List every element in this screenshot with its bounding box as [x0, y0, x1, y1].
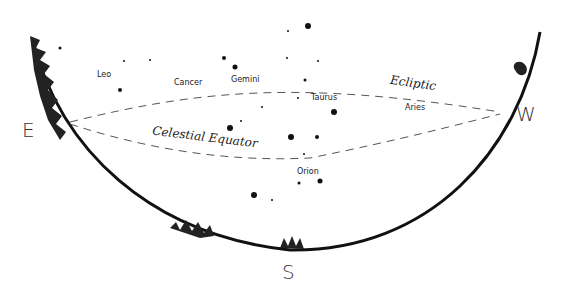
constellation-cancer: Cancer — [174, 78, 202, 87]
direction-west: W — [516, 102, 536, 126]
horizon-trees-west — [514, 62, 527, 76]
star — [227, 125, 233, 131]
star — [149, 59, 151, 61]
direction-east: E — [22, 118, 35, 142]
star — [288, 134, 294, 140]
star — [331, 109, 337, 115]
star — [305, 23, 311, 29]
star — [287, 30, 289, 32]
star — [317, 60, 319, 62]
horizon-arc — [32, 32, 540, 250]
star — [297, 97, 299, 99]
star — [286, 57, 288, 59]
celestial-equator-line — [70, 114, 500, 159]
direction-south: S — [282, 260, 295, 284]
constellation-orion: Orion — [297, 167, 319, 176]
ecliptic-line — [70, 92, 500, 122]
star — [315, 135, 319, 139]
constellation-taurus: Taurus — [311, 93, 337, 102]
star — [59, 47, 62, 50]
star — [251, 192, 257, 198]
star — [318, 179, 323, 184]
star — [123, 60, 125, 62]
horizon-trees-east — [30, 36, 66, 140]
star — [304, 79, 307, 82]
star — [222, 56, 226, 60]
star — [271, 199, 273, 201]
star — [233, 65, 238, 70]
constellation-aries: Aries — [405, 103, 425, 112]
star — [240, 120, 242, 122]
star — [298, 182, 301, 185]
star — [261, 106, 263, 108]
constellation-leo: Leo — [97, 70, 111, 79]
constellation-gemini: Gemini — [231, 75, 259, 84]
stars — [59, 23, 338, 201]
star — [303, 153, 305, 155]
star — [118, 88, 122, 92]
sky-dome-drawing — [0, 0, 566, 300]
